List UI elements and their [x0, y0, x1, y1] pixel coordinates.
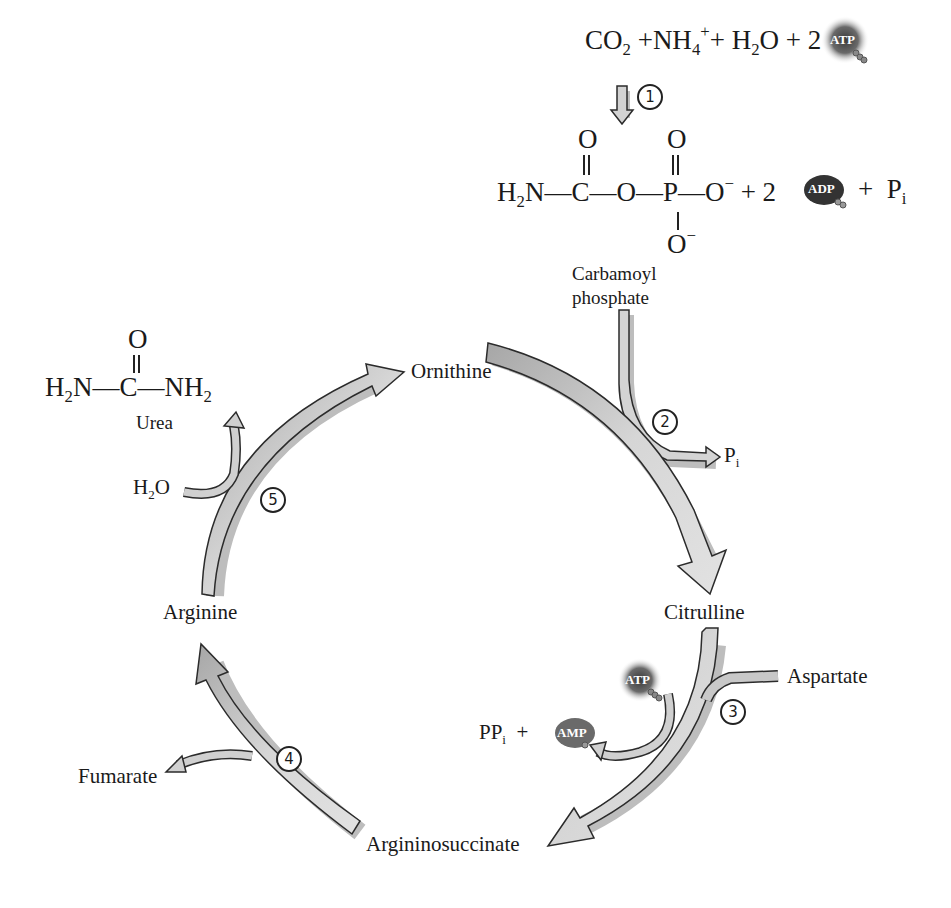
double-bond-p2 — [677, 155, 679, 175]
step2-pi: Pi — [724, 443, 739, 471]
step3-aspartate-arrow — [706, 676, 778, 700]
intermediate-citrulline: Citrulline — [664, 600, 745, 625]
urea-formula: H2N—C—NH2 — [45, 372, 212, 407]
carbamoyl-phosphate-name: Carbamoyl phosphate — [572, 262, 656, 310]
urea-name: Urea — [136, 412, 173, 434]
adp-label: ADP — [808, 181, 835, 197]
arc-ornithine-to-citrulline — [486, 343, 726, 594]
urea-o-top: O — [128, 324, 148, 355]
carbamoyl-o-top-c: O — [578, 124, 598, 155]
atp-label-top: ATP — [830, 32, 855, 48]
amp-label: AMP — [557, 725, 587, 741]
step-3-marker: 3 — [720, 699, 746, 725]
double-bond-p — [672, 155, 674, 175]
step5-h2o-urea-arrow — [184, 412, 244, 494]
carbamoyl-phosphate-formula: H2N—C—O—P—O− + 2 — [497, 174, 776, 212]
step-1-marker: 1 — [637, 84, 663, 110]
atp-label-step3: ATP — [625, 672, 650, 688]
intermediate-ornithine: Ornithine — [411, 359, 491, 384]
reaction1-pi: + Pi — [858, 174, 906, 209]
step3-aspartate: Aspartate — [787, 664, 867, 689]
urea-double-bond-1 — [133, 355, 135, 373]
carbamoyl-o-top-p: O — [667, 124, 687, 155]
step1-arrow — [611, 86, 633, 124]
double-bond-c2 — [588, 155, 590, 175]
step-5-marker: 5 — [260, 487, 286, 513]
intermediate-arginine: Arginine — [163, 600, 237, 625]
arc-argininosuccinate-to-arginine — [196, 644, 360, 834]
step-2-marker: 2 — [652, 409, 678, 435]
intermediate-argininosuccinate: Argininosuccinate — [366, 832, 520, 857]
step5-h2o: H2O — [133, 475, 170, 503]
carbamoyl-o-bottom: O− — [667, 226, 696, 260]
step3-ppi: PPi + — [479, 720, 528, 748]
step3-atp-amp-arrow — [590, 694, 670, 760]
reaction1-reactants: CO2 +NH4++ H2O + 2 — [585, 22, 821, 60]
step-4-marker: 4 — [276, 746, 302, 772]
urea-double-bond-2 — [138, 355, 140, 373]
step4-fumarate: Fumarate — [78, 764, 157, 789]
double-bond-c — [583, 155, 585, 175]
step4-fumarate-arrow — [166, 754, 252, 772]
